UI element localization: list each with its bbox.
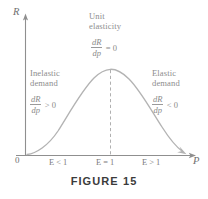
tick-label-unit-elasticity: E = 1	[96, 158, 114, 167]
figure-container: R P 0 Unit elasticity dR dp = 0 Inelasti…	[0, 0, 208, 199]
elastic-demand-line1: Elastic	[152, 68, 180, 78]
unit-elasticity-line1: Unit	[89, 11, 121, 21]
unit-elasticity-formula: dR dp = 0	[91, 38, 117, 57]
inelastic-demand-fraction: dR dp	[30, 95, 42, 114]
unit-elasticity-numerator: dR	[91, 38, 103, 47]
inelastic-demand-numerator: dR	[30, 95, 42, 104]
figure-caption: FIGURE 15	[0, 175, 208, 187]
annotation-unit-elasticity: Unit elasticity dR dp = 0	[89, 11, 121, 57]
unit-elasticity-denominator: dp	[91, 47, 102, 57]
tick-label-inelastic-region: E < 1	[49, 158, 67, 167]
plot-area: R P 0 Unit elasticity dR dp = 0 Inelasti…	[0, 0, 208, 172]
tick-label-elastic-region: E > 1	[142, 158, 160, 167]
elastic-demand-numerator: dR	[152, 95, 164, 104]
origin-label: 0	[15, 155, 20, 165]
unit-elasticity-fraction: dR dp	[91, 38, 103, 57]
elastic-demand-formula: dR dp < 0	[152, 95, 178, 114]
elastic-demand-denominator: dp	[152, 104, 163, 114]
elastic-demand-line2: demand	[152, 78, 180, 88]
unit-elasticity-line2: elasticity	[89, 21, 121, 31]
y-axis-label: R	[13, 6, 19, 17]
inelastic-demand-relation: > 0	[45, 100, 56, 110]
y-axis	[23, 14, 28, 156]
inelastic-demand-line2: demand	[30, 78, 60, 88]
inelastic-demand-denominator: dp	[30, 104, 41, 114]
inelastic-demand-line1: Inelastic	[30, 68, 60, 78]
annotation-inelastic-demand: Inelastic demand dR dp > 0	[30, 68, 60, 114]
elastic-demand-relation: < 0	[167, 100, 178, 110]
annotation-elastic-demand: Elastic demand dR dp < 0	[152, 68, 180, 114]
x-axis-label: P	[193, 155, 199, 166]
inelastic-demand-formula: dR dp > 0	[30, 95, 56, 114]
elastic-demand-fraction: dR dp	[152, 95, 164, 114]
unit-elasticity-relation: = 0	[106, 43, 117, 53]
